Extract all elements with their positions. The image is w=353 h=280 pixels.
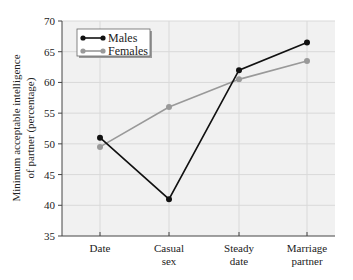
y-axis-title: Minimum acceptable intelligenceof partne…	[10, 54, 37, 201]
x-category-label: partner	[291, 255, 322, 267]
x-category-label: Marriage	[287, 242, 327, 254]
data-point	[304, 40, 310, 46]
line-chart: 3540455055606570 DateCasualsexSteadydate…	[0, 0, 353, 280]
legend-marker-icon	[80, 35, 85, 40]
legend-marker-icon	[100, 35, 105, 40]
y-tick-label: 65	[44, 46, 56, 58]
y-tick-label: 60	[44, 76, 56, 88]
x-category-label: Date	[90, 242, 111, 254]
data-point	[97, 135, 103, 141]
x-category-label: date	[230, 255, 248, 267]
x-axis-ticks: DateCasualsexSteadydateMarriagepartner	[90, 232, 328, 267]
data-point	[166, 196, 172, 202]
data-point	[304, 58, 310, 64]
y-tick-label: 40	[44, 199, 56, 211]
data-point	[236, 67, 242, 73]
data-point	[236, 76, 242, 82]
legend-marker-icon	[80, 48, 85, 53]
x-category-label: sex	[162, 255, 177, 267]
y-tick-label: 35	[44, 230, 56, 242]
x-category-label: Steady	[224, 242, 254, 254]
legend: MalesFemales	[77, 29, 152, 58]
legend-label: Females	[108, 44, 148, 58]
legend-label: Males	[108, 31, 138, 45]
y-tick-label: 45	[44, 169, 56, 181]
y-tick-label: 70	[44, 15, 56, 27]
y-tick-label: 50	[44, 138, 56, 150]
x-category-label: Casual	[154, 242, 184, 254]
y-tick-label: 55	[44, 107, 56, 119]
data-point	[97, 144, 103, 150]
data-point	[166, 104, 172, 110]
y-axis-ticks: 3540455055606570	[44, 15, 62, 242]
legend-marker-icon	[100, 48, 105, 53]
